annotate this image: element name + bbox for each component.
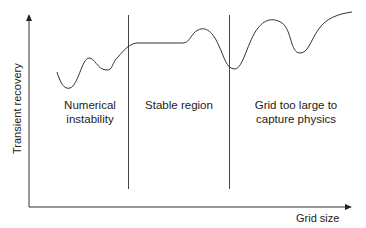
region-label-stable: Stable region xyxy=(138,98,220,112)
region-label-numerical-instability: Numerical instability xyxy=(52,98,128,126)
x-axis-label: Grid size xyxy=(296,212,339,224)
y-axis-arrow-icon xyxy=(26,14,32,21)
region-label-line: capture physics xyxy=(238,112,354,126)
region-label-line: instability xyxy=(52,112,128,126)
transient-recovery-curve xyxy=(57,12,352,88)
region-label-line: Numerical xyxy=(52,98,128,112)
region-label-line: Grid too large to xyxy=(238,98,354,112)
region-label-line: Stable region xyxy=(138,98,220,112)
x-axis-arrow-icon xyxy=(345,204,352,210)
y-axis-label: Transient recovery xyxy=(11,63,23,154)
region-label-grid-too-large: Grid too large to capture physics xyxy=(238,98,354,126)
